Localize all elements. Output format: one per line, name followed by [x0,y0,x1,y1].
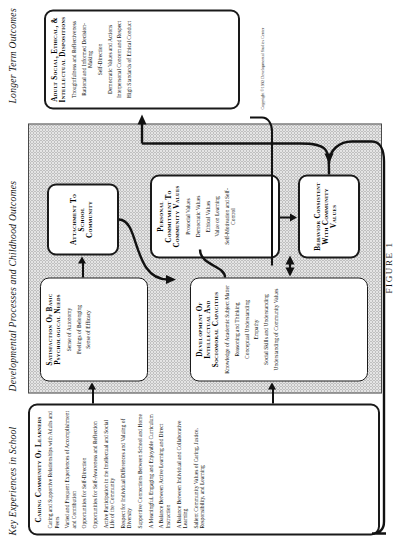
copyright-notice: Copyright ©1992 Developmental Studies Ce… [260,27,265,109]
figure-label: FIGURE 1 [384,241,394,293]
